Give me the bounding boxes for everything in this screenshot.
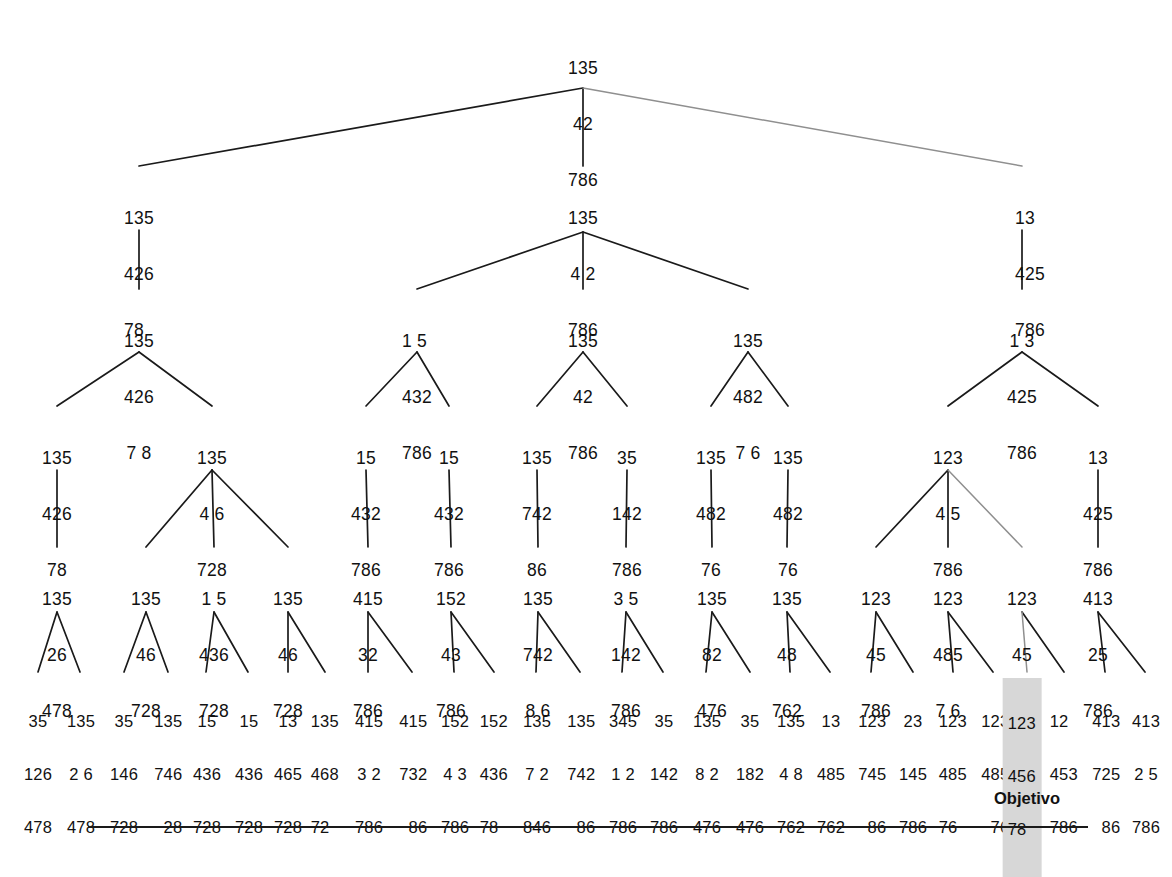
node-row: 46 — [131, 646, 161, 665]
node-row: 436 — [193, 766, 222, 784]
node-row: 123 — [933, 590, 963, 609]
node-row: 426 — [124, 388, 154, 407]
tree-leaf-node[interactable]: 23 145 786 — [899, 678, 928, 872]
node-row: 135 — [568, 59, 598, 78]
edge-n2-n7 — [583, 232, 748, 289]
node-row: 123 — [1007, 590, 1037, 609]
node-row: 432 — [402, 388, 432, 407]
node-row: 786 — [609, 819, 638, 837]
node-row: 135 — [124, 209, 154, 228]
tree-leaf-node[interactable]: 135 8 2 476 — [693, 678, 722, 872]
node-row: 415 — [355, 713, 384, 731]
node-row: 732 — [399, 766, 428, 784]
tree-leaf-node[interactable]: 15 436 728 — [235, 678, 264, 872]
tree-leaf-node[interactable]: 135 742 86 — [567, 678, 596, 872]
node-row: 786 — [1050, 819, 1079, 837]
tree-leaf-node[interactable]: 152 436 78 — [480, 678, 509, 872]
node-row: 142 — [611, 646, 641, 665]
node-row: 762 — [777, 819, 806, 837]
node-row: 35 — [650, 713, 679, 731]
tree-leaf-node[interactable]: 123 745 86 — [858, 678, 887, 872]
tree-leaf-node[interactable]: 35 142 786 — [650, 678, 679, 872]
node-row: 135 — [568, 332, 598, 351]
node-row: 485 — [817, 766, 846, 784]
node-row: 742 — [522, 505, 552, 524]
tree-leaf-node[interactable]: 152 4 3 786 — [441, 678, 470, 872]
node-row: 482 — [773, 505, 803, 524]
node-row: 26 — [42, 646, 72, 665]
tree-leaf-node[interactable]: 35 126 478 — [24, 678, 53, 872]
node-row: 436 — [480, 766, 509, 784]
node-row: 15 — [235, 713, 264, 731]
node-row: 485 — [933, 646, 963, 665]
node-row: 135 — [523, 713, 552, 731]
tree-leaf-node[interactable]: 413 2 5 786 — [1132, 678, 1161, 872]
tree-node[interactable]: 1 5 432 786 — [402, 295, 432, 500]
tree-leaf-node[interactable]: 415 3 2 786 — [355, 678, 384, 872]
tree-leaf-node[interactable]: 415 732 86 — [399, 678, 428, 872]
node-row: 425 — [1007, 388, 1037, 407]
node-row: 152 — [436, 590, 466, 609]
node-row: 13 — [1015, 209, 1045, 228]
node-row: 2 6 — [67, 766, 96, 784]
node-row: 72 — [311, 819, 340, 837]
tree-leaf-node[interactable]: 13 485 762 — [817, 678, 846, 872]
node-row: 1 5 — [402, 332, 432, 351]
tree-node[interactable]: 135 482 7 6 — [733, 295, 763, 500]
tree-leaf-node[interactable]: 345 1 2 786 — [609, 678, 638, 872]
node-row: 413 — [1092, 713, 1121, 731]
node-row: 25 — [1083, 646, 1113, 665]
node-row: 3 5 — [611, 590, 641, 609]
node-row: 786 — [355, 819, 384, 837]
tree-leaf-node[interactable]: 35 146 728 — [110, 678, 139, 872]
node-row: 456 — [1008, 768, 1037, 786]
tree-leaf-node[interactable]: 12 453 786 — [1050, 678, 1079, 872]
node-row: 432 — [351, 505, 381, 524]
node-row: 76 — [939, 819, 968, 837]
goal-label: Objetivo — [994, 789, 1060, 808]
tree-goal-node[interactable]: 123 456 78 — [1003, 678, 1042, 877]
node-row: 42 — [568, 115, 598, 134]
node-row: 413 — [1083, 590, 1113, 609]
tree-leaf-node[interactable]: 135 4 8 762 — [777, 678, 806, 872]
node-row: 182 — [736, 766, 765, 784]
node-row: 135 — [42, 590, 72, 609]
node-row: 8 2 — [693, 766, 722, 784]
tree-leaf-node[interactable]: 35 182 476 — [736, 678, 765, 872]
tree-leaf-node[interactable]: 13 465 728 — [274, 678, 303, 872]
tree-node[interactable]: 135 42 786 — [568, 295, 598, 500]
node-row: 485 — [939, 766, 968, 784]
tree-leaf-node[interactable]: 135 7 2 846 — [523, 678, 552, 872]
node-row: 4 6 — [197, 505, 227, 524]
tree-leaf-node[interactable]: 15 436 728 — [193, 678, 222, 872]
node-row: 482 — [696, 505, 726, 524]
node-row: 135 — [523, 590, 553, 609]
tree-node[interactable]: 135 426 7 8 — [124, 295, 154, 500]
tree-leaf-node[interactable]: 135 2 6 478 — [67, 678, 96, 872]
node-row: 746 — [154, 766, 183, 784]
tree-leaf-node[interactable]: 135 746 28 — [154, 678, 183, 872]
node-row: 135 — [777, 713, 806, 731]
node-row: 135 — [311, 713, 340, 731]
node-row: 135 — [131, 590, 161, 609]
node-row: 135 — [733, 332, 763, 351]
node-row: 415 — [353, 590, 383, 609]
node-row: 46 — [273, 646, 303, 665]
node-row: 476 — [693, 819, 722, 837]
node-row: 35 — [24, 713, 53, 731]
tree-leaf-node[interactable]: 135 468 72 — [311, 678, 340, 872]
node-row: 426 — [42, 505, 72, 524]
node-row: 728 — [235, 819, 264, 837]
tree-leaf-node[interactable]: 123 485 76 — [939, 678, 968, 872]
node-row: 728 — [110, 819, 139, 837]
node-row: 415 — [399, 713, 428, 731]
node-row: 728 — [193, 819, 222, 837]
tree-leaf-node[interactable]: 413 725 86 — [1092, 678, 1121, 872]
node-row: 4 5 — [933, 505, 963, 524]
tree-node[interactable]: 1 3 425 786 — [1007, 295, 1037, 500]
node-row: 135 — [693, 713, 722, 731]
node-row: 13 — [817, 713, 846, 731]
node-row: 15 — [193, 713, 222, 731]
node-row: 82 — [697, 646, 727, 665]
